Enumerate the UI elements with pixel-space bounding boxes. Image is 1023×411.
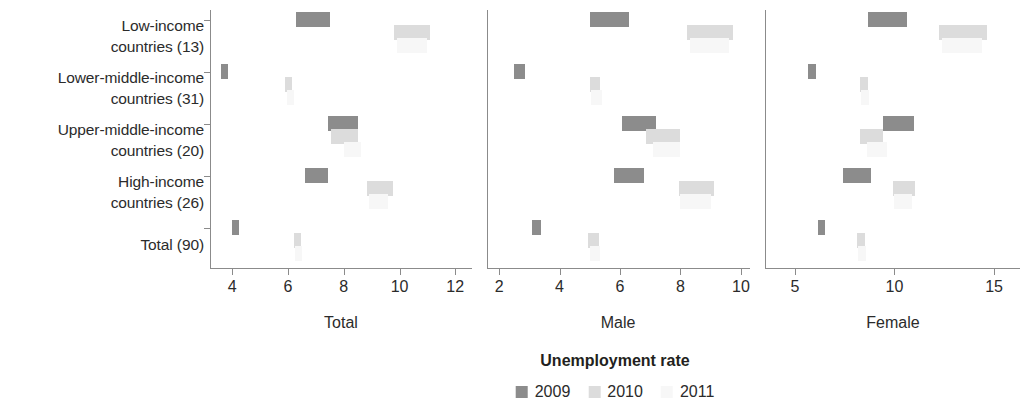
x-axis-tick-label: 5 [790,278,799,296]
data-marker-2009 [296,12,329,27]
data-marker-2011 [369,194,389,209]
data-marker-2009 [868,12,908,27]
legend-item-2011[interactable]: 2011 [661,383,714,401]
x-axis-tick [400,269,401,275]
panel-title-male: Male [601,314,636,332]
x-axis-tick-label: 8 [676,278,685,296]
legend-label: 2010 [607,383,643,401]
x-axis-tick-label: 12 [446,278,464,296]
y-axis-line [210,10,211,268]
x-axis-tick [560,269,561,275]
data-marker-2011 [397,38,428,53]
x-axis-line [765,268,1020,269]
panel-title-female: Female [866,314,919,332]
y-axis-tick [204,228,211,229]
data-marker-2009 [305,168,329,183]
data-marker-2009 [232,220,239,235]
legend-item-2009[interactable]: 2009 [516,383,571,401]
data-marker-2011 [591,90,602,105]
data-marker-2011 [295,246,302,261]
y-axis-line [765,10,766,268]
data-marker-2011 [287,90,294,105]
category-label: Upper-middle-income countries (20) [58,119,204,161]
x-axis-tick [741,269,742,275]
x-axis-tick-label: 6 [616,278,625,296]
legend-item-2010[interactable]: 2010 [588,383,643,401]
data-marker-2009 [614,168,644,183]
x-axis-tick-label: 8 [339,278,348,296]
y-axis-tick [204,176,211,177]
category-label: Total (90) [140,234,204,255]
x-axis-tick [232,269,233,275]
category-label: Low-income countries (13) [111,15,204,57]
x-axis-tick [680,269,681,275]
x-axis-tick [795,269,796,275]
x-axis-tick [455,269,456,275]
data-marker-2009 [590,12,629,27]
x-axis-tick-label: 4 [228,278,237,296]
x-axis-tick [288,269,289,275]
data-marker-2011 [861,90,869,105]
panel-female: 51015 [765,0,1020,268]
y-axis-tick [204,72,211,73]
legend-swatch-icon [516,386,528,398]
data-marker-2009 [514,64,525,79]
data-marker-2011 [680,194,710,209]
x-axis-tick-label: 10 [886,278,904,296]
data-marker-2011 [653,142,680,157]
legend-swatch-icon [588,386,600,398]
y-axis-tick [204,124,211,125]
category-axis-labels: Low-income countries (13)Lower-middle-in… [0,0,208,270]
x-axis-tick-label: 4 [555,278,564,296]
data-marker-2009 [843,168,871,183]
data-marker-2009 [221,64,228,79]
data-marker-2011 [894,194,912,209]
x-axis-tick [994,269,995,275]
data-marker-2011 [867,142,887,157]
category-label: High-income countries (26) [111,171,204,213]
x-axis-title: Unemployment rate [540,352,689,370]
data-marker-2011 [344,142,361,157]
x-axis-tick [499,269,500,275]
x-axis-line [487,268,750,269]
x-axis-tick-label: 2 [495,278,504,296]
data-marker-2011 [590,246,601,261]
x-axis-tick-label: 6 [284,278,293,296]
panel-title-total: Total [324,314,358,332]
data-marker-2011 [942,38,982,53]
legend-swatch-icon [661,386,673,398]
data-marker-2009 [883,116,915,131]
chart-legend: 200920102011 [516,383,715,401]
panel-male: 246810 [487,0,750,268]
y-axis-line [487,10,488,268]
category-label: Lower-middle-income countries (31) [58,67,204,109]
x-axis-line [210,268,472,269]
y-axis-tick [204,20,211,21]
legend-label: 2011 [680,383,714,401]
x-axis-tick [620,269,621,275]
data-marker-2009 [818,220,825,235]
data-marker-2011 [858,246,866,261]
unemployment-rate-chart: Low-income countries (13)Lower-middle-in… [0,0,1023,411]
x-axis-tick-label: 10 [732,278,750,296]
data-marker-2009 [532,220,541,235]
data-marker-2011 [690,38,729,53]
legend-label: 2009 [535,383,571,401]
x-axis-tick-label: 15 [985,278,1003,296]
x-axis-tick [344,269,345,275]
x-axis-tick-label: 10 [391,278,409,296]
panel-total: 4681012 [210,0,472,268]
x-axis-tick [894,269,895,275]
data-marker-2009 [808,64,816,79]
